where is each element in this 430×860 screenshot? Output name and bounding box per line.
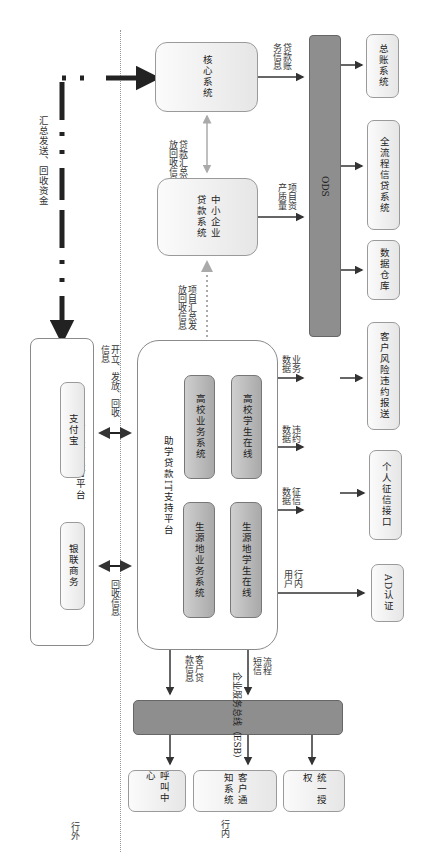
zone-inside-label: 行内 (220, 820, 230, 838)
sme-loan-system-box[interactable]: 中小企业贷款系统 (157, 178, 258, 256)
unionpay-label: 银联商务 (66, 544, 80, 588)
sme-loan-system-label: 中小企业贷款系统 (194, 195, 222, 239)
origin-student-box[interactable]: 生源地学生在线 (230, 502, 262, 618)
ods-label: ODS (320, 176, 330, 197)
unionpay-link-label: 回收信息 (110, 580, 120, 616)
core-to-ods-label: 贷款账务信息 (262, 43, 292, 73)
customer-loan-info-label: 客户贷款信息 (174, 655, 204, 685)
full-credit-system-label: 全流程信贷系统 (377, 137, 391, 214)
college-business-label: 高校业务系统 (193, 394, 207, 460)
customer-notify-box[interactable]: 客户通知系统 (193, 770, 277, 812)
credit-interface-box[interactable]: 个人征信接口 (369, 450, 402, 540)
zone-outside-label: 行外 (70, 822, 80, 840)
unified-auth-label: 统一授权 (300, 773, 328, 809)
credit-interface-label: 个人征信接口 (379, 462, 393, 528)
ods-bus[interactable]: ODS (309, 35, 341, 337)
core-system-label: 核心系统 (200, 55, 214, 99)
data-warehouse-label: 数据仓库 (377, 248, 391, 292)
alipay-label: 支付宝 (66, 414, 80, 447)
sms-flow-label: 流程短信 (252, 657, 272, 679)
college-business-box[interactable]: 高校业务系统 (184, 375, 215, 479)
student-loan-platform-title: 助学贷款IT支持平台 (161, 436, 175, 536)
payment-flow-label: 汇总发送、回收资金 (38, 116, 48, 206)
call-center-label: 呼叫中心 (143, 771, 171, 811)
default-data-label: 违约数据 (281, 425, 301, 445)
credit-data-label: 征信数据 (281, 487, 301, 507)
internal-users-label: 行内用户 (283, 570, 303, 590)
risk-report-box[interactable]: 客户风险违约报送 (367, 322, 400, 430)
alipay-link-label: 开立、发放、回收信息 (98, 345, 120, 417)
general-ledger-box[interactable]: 总账系统 (366, 34, 399, 98)
origin-student-label: 生源地学生在线 (239, 522, 253, 599)
esb-bus[interactable]: 企业服务总线（ESB） (133, 700, 343, 735)
sme-to-ods-label: 项目资产质量 (267, 183, 297, 213)
ad-auth-box[interactable]: AD认证 (371, 564, 404, 622)
college-student-box[interactable]: 高校学生在线 (231, 375, 262, 479)
risk-report-label: 客户风险违约报送 (377, 332, 391, 420)
data-warehouse-box[interactable]: 数据仓库 (367, 240, 400, 300)
origin-business-box[interactable]: 生源地业务系统 (183, 502, 215, 618)
unified-auth-box[interactable]: 统一授权 (283, 770, 345, 812)
customer-notify-label: 客户通知系统 (221, 773, 249, 809)
business-data-label: 业务数据 (281, 355, 301, 375)
ad-auth-label: AD认证 (381, 574, 395, 612)
general-ledger-label: 总账系统 (376, 44, 390, 88)
origin-business-label: 生源地业务系统 (192, 522, 206, 599)
payment-flow-arrow (62, 78, 148, 332)
alipay-box[interactable]: 支付宝 (60, 382, 85, 478)
unionpay-box[interactable]: 银联商务 (60, 522, 85, 610)
platform-to-sme-label: 项目汇总发放回收信息 (145, 285, 197, 337)
core-system-box[interactable]: 核心系统 (155, 42, 258, 112)
college-student-label: 高校学生在线 (240, 394, 254, 460)
full-credit-system-box[interactable]: 全流程信贷系统 (367, 120, 400, 230)
call-center-box[interactable]: 呼叫中心 (128, 770, 186, 812)
esb-label: 企业服务总线（ESB） (231, 672, 244, 763)
